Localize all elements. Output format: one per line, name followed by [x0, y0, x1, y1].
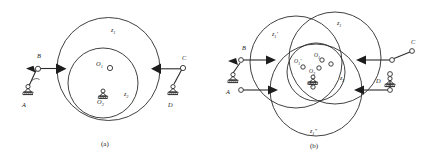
- panel-b-joint-c-inner: [390, 58, 395, 63]
- panel-b-support-a: [227, 73, 238, 83]
- panel-b-joint-a-lower: [239, 88, 244, 93]
- panel-b-center-o1-prime: [301, 65, 305, 69]
- panel-b-label-o3: O3: [309, 68, 316, 76]
- panel-b-contact-arrow-lower-left: [268, 86, 278, 95]
- panel-a-left-linkage: [22, 64, 66, 95]
- panel-a-joint-c: [180, 65, 185, 70]
- panel-a-label-o2: O2: [97, 98, 105, 107]
- panel-b-label-c: C: [411, 38, 416, 45]
- panel-b-label-b: B: [242, 44, 246, 51]
- panel-a-caption: (a): [101, 140, 109, 148]
- panel-b-label-d: D: [375, 77, 381, 84]
- panel-b-joint-c: [410, 49, 415, 54]
- panel-a-label-a: A: [21, 101, 26, 108]
- panel-b-label-z1-prime: z1': [271, 31, 279, 39]
- panel-b-contact-arrow-lower-right: [354, 86, 364, 95]
- panel-b-centers: [301, 58, 333, 89]
- panel-a-right-linkage: [151, 64, 186, 95]
- panel-a-direction-arrow: [26, 66, 36, 73]
- panel-b-left-linkage: [227, 56, 278, 95]
- panel-a-label-b: B: [37, 52, 41, 59]
- panel-b-center-o1-b: [329, 62, 333, 66]
- panel-a-label-z1: z1: [110, 27, 116, 35]
- panel-a-contact-arrow-left: [56, 64, 67, 75]
- panel-b-center-o1-a: [320, 58, 324, 62]
- panel-a-label-o1: O1: [96, 60, 103, 69]
- panel-a-support-a: [22, 85, 33, 95]
- panel-b-label-o1: O1: [314, 52, 320, 60]
- figure-container: z1 z2 O1 O2 A B C D (a): [0, 0, 435, 161]
- panel-a-label-d: D: [167, 101, 173, 108]
- panel-b-label-z1: z1: [336, 20, 342, 28]
- panel-b-label-z1-double-prime: z1": [309, 128, 318, 136]
- panel-b-contact-arrow-upper-right: [356, 56, 366, 65]
- panel-b-caption: (b): [310, 142, 319, 150]
- panel-b-center-o1-c: [317, 66, 321, 70]
- panel-a-center-o1: [107, 65, 112, 70]
- panel-a-contact-arrow-right: [151, 64, 161, 75]
- panel-a-centers: [98, 65, 113, 98]
- panel-a-center-o2: [98, 89, 108, 98]
- panel-a: z1 z2 O1 O2 A B C D (a): [21, 18, 187, 149]
- panel-b-label-o1-prime: O1': [294, 58, 302, 66]
- panel-a-label-c: C: [182, 54, 187, 61]
- panel-b-label-a: A: [225, 88, 230, 95]
- panel-b-joint-b: [239, 58, 244, 63]
- panel-b: z1 z1' z1" z2 O1' O1 O3 O1" A B C D (b): [225, 12, 416, 150]
- panel-b-right-linkage: [354, 49, 414, 95]
- panel-a-support-d: [167, 85, 178, 95]
- panel-b-direction-arrow: [228, 58, 238, 65]
- panel-b-joint-d-upper: [388, 72, 393, 77]
- panel-a-joint-b: [35, 66, 40, 71]
- panel-b-contact-arrow-upper-left: [266, 56, 276, 65]
- panel-a-label-z2: z2: [123, 91, 129, 99]
- panel-a-inner-wheel: [68, 48, 138, 118]
- mechanism-diagram-svg: z1 z2 O1 O2 A B C D (a): [0, 0, 435, 161]
- panel-b-joint-d-lower: [388, 88, 393, 93]
